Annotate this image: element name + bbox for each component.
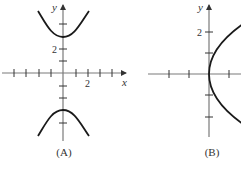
figure-a-x-tick-label: 2: [85, 78, 90, 89]
figure-a-caption: (A): [56, 146, 72, 159]
figure-b: y 2 (B): [148, 1, 241, 159]
figure-a-y-label: y: [51, 1, 57, 13]
figure-canvas: y x 2 2 (A) y 2 (B): [0, 0, 241, 170]
figure-b-caption: (B): [205, 146, 220, 159]
figure-b-y-label: y: [197, 1, 203, 13]
figure-a: y x 2 2 (A): [2, 1, 127, 159]
figure-b-y-tick-label: 2: [197, 27, 202, 38]
figure-a-y-tick-label: 2: [52, 44, 57, 55]
figure-a-x-label: x: [121, 76, 127, 88]
